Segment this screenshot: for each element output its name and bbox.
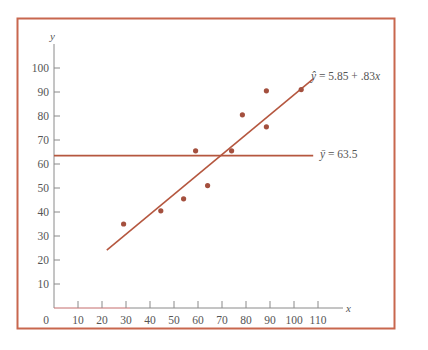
x-tick-label: 60: [192, 314, 204, 326]
data-point: [193, 148, 198, 153]
regression-equation-label: ŷ = 5.85 + .83x: [310, 70, 381, 83]
data-point: [121, 221, 126, 226]
y-tick-label: 50: [38, 182, 50, 194]
x-tick-label: 40: [144, 314, 156, 326]
y-axis: 102030405060708090100 y: [32, 30, 60, 308]
y-tick-label: 60: [38, 158, 50, 170]
data-point: [240, 112, 245, 117]
y-axis-title: y: [49, 30, 55, 42]
x-tick-label: 30: [120, 314, 132, 326]
x-tick-label: 50: [168, 314, 180, 326]
data-points: [121, 87, 304, 227]
x-tick-label: 70: [216, 314, 228, 326]
chart-frame: [18, 19, 395, 329]
x-tick-label: 110: [310, 314, 327, 326]
y-tick-label: 70: [38, 134, 50, 146]
x-tick-label: 20: [96, 314, 108, 326]
x-tick-label: 80: [240, 314, 252, 326]
x-tick-label: 100: [285, 314, 303, 326]
data-point: [205, 183, 210, 188]
y-tick-label: 40: [38, 206, 50, 218]
regression-line: [107, 79, 313, 250]
y-tick-label: 80: [38, 110, 50, 122]
x-tick-label: 0: [43, 314, 49, 326]
data-point: [299, 87, 304, 92]
y-tick-label: 100: [32, 62, 50, 74]
x-axis: 0102030405060708090100110 x: [43, 301, 351, 326]
y-tick-label: 10: [38, 278, 50, 290]
scatter-chart: 102030405060708090100 y 0102030405060708…: [0, 0, 428, 350]
mean-equation-label: ȳ = 63.5: [319, 148, 358, 161]
x-axis-title: x: [345, 302, 351, 314]
data-point: [264, 124, 269, 129]
data-point: [181, 196, 186, 201]
x-tick-label: 90: [264, 314, 276, 326]
data-point: [264, 88, 269, 93]
data-point: [229, 148, 234, 153]
y-tick-label: 30: [38, 230, 50, 242]
y-tick-label: 90: [38, 86, 50, 98]
data-point: [158, 208, 163, 213]
x-tick-label: 10: [72, 314, 84, 326]
y-tick-label: 20: [38, 254, 50, 266]
